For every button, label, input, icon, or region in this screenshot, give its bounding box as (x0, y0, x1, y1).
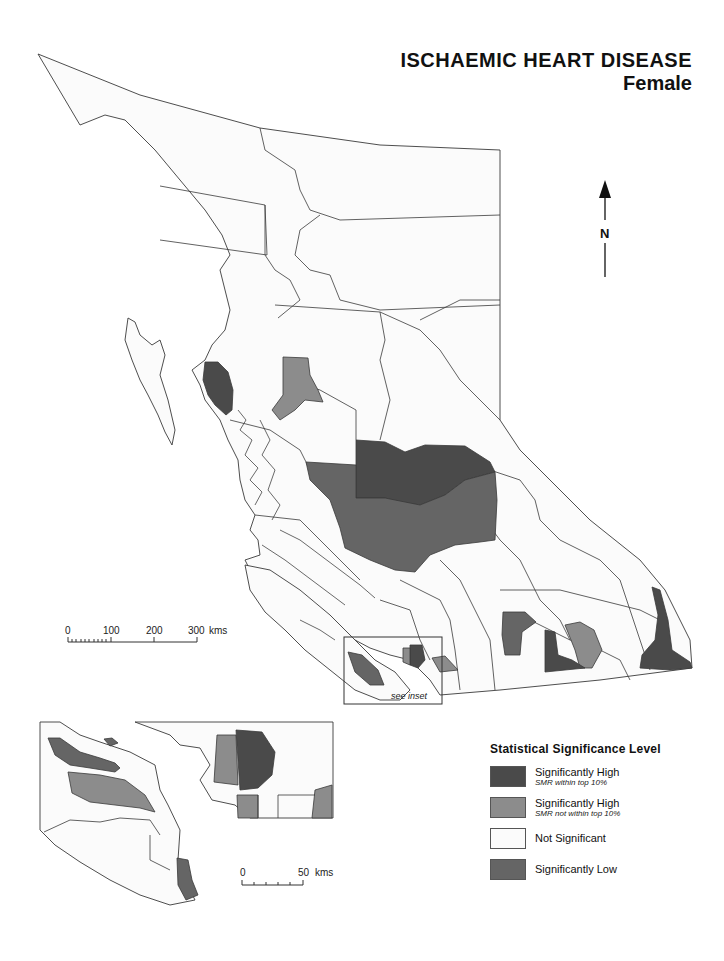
svg-text:0: 0 (240, 867, 246, 878)
svg-text:100: 100 (103, 625, 120, 636)
main-scale-bar: 0 100 200 300 kms (65, 625, 227, 642)
legend-item-sig-high-not-top10: Significantly High SMR not within top 10… (490, 797, 710, 819)
legend-item-sig-high-top10: Significantly High SMR within top 10% (490, 766, 710, 788)
north-arrow-icon: N (599, 180, 611, 277)
see-inset-note: see inset (391, 691, 428, 701)
inset-map: 0 50 kms (40, 722, 333, 905)
region-sig-high-not-top10-van (403, 648, 410, 665)
inset-scale-bar: 0 50 kms (240, 867, 333, 885)
legend-swatch (490, 859, 526, 880)
legend-sublabel: SMR not within top 10% (535, 809, 620, 818)
svg-text:0: 0 (65, 625, 71, 636)
legend-label: Not Significant (535, 832, 606, 844)
legend-item-sig-low: Significantly Low (490, 859, 710, 881)
legend-swatch (490, 797, 526, 818)
legend-sublabel: SMR within top 10% (535, 778, 619, 787)
legend-label: Significantly High (535, 797, 620, 809)
legend-swatch (490, 766, 526, 787)
legend-label: Significantly Low (535, 863, 617, 875)
legend-item-not-significant: Not Significant (490, 828, 710, 850)
island-haida-gwaii (125, 318, 175, 445)
legend-swatch (490, 828, 526, 849)
svg-text:50: 50 (298, 867, 310, 878)
svg-text:kms: kms (209, 625, 227, 636)
legend-title: Statistical Significance Level (490, 742, 710, 756)
svg-text:N: N (600, 226, 609, 241)
svg-text:200: 200 (146, 625, 163, 636)
svg-text:300: 300 (188, 625, 205, 636)
legend-label: Significantly High (535, 766, 619, 778)
svg-text:kms: kms (315, 867, 333, 878)
legend: Statistical Significance Level Significa… (490, 742, 710, 890)
